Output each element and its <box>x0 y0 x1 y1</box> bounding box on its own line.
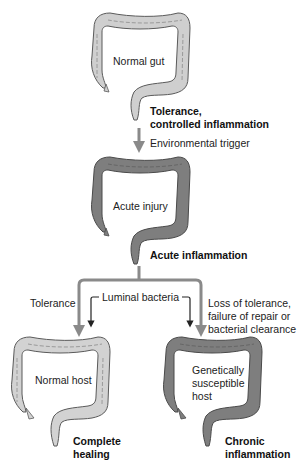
colon-normal-host <box>11 337 110 446</box>
label-tolerance: Tolerance, <box>150 105 202 118</box>
arrow-head-left <box>73 325 85 337</box>
label-tolerance-branch: Tolerance <box>30 297 76 310</box>
label-host: host <box>192 390 212 403</box>
label-bacterial-clearance: bacterial clearance <box>208 323 296 336</box>
label-acute-injury: Acute injury <box>113 200 168 213</box>
diagram-artwork <box>0 0 304 463</box>
colon-susceptible-host <box>163 337 262 446</box>
ibd-pathogenesis-diagram: Normal gut Tolerance, controlled inflamm… <box>0 0 304 463</box>
label-normal-gut: Normal gut <box>113 55 164 68</box>
label-inflammation: inflammation <box>225 448 290 461</box>
label-loss-of-tolerance: Loss of tolerance, <box>208 297 291 310</box>
label-acute-inflammation: Acute inflammation <box>150 249 247 262</box>
label-complete: Complete <box>73 435 121 448</box>
arrow-head-right <box>195 325 207 337</box>
label-environmental-trigger: Environmental trigger <box>150 137 250 150</box>
label-chronic: Chronic <box>225 435 265 448</box>
label-susceptible: susceptible <box>192 377 245 390</box>
label-healing: healing <box>73 448 110 461</box>
arrow-environmental-trigger <box>133 128 145 153</box>
label-genetically: Genetically <box>192 364 244 377</box>
label-luminal-bacteria: Luminal bacteria <box>102 291 179 304</box>
label-failure-of-repair: failure of repair or <box>208 310 290 323</box>
label-normal-host: Normal host <box>35 374 92 387</box>
label-controlled-inflammation: controlled inflammation <box>150 118 269 131</box>
